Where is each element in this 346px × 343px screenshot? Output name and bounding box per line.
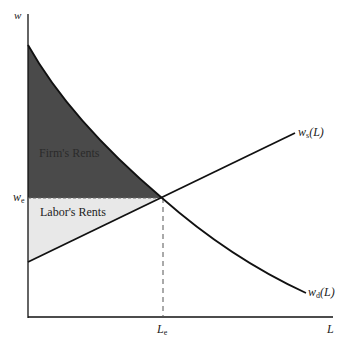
le-label: Le	[157, 322, 167, 337]
supply-label-text: w	[298, 125, 306, 139]
demand-label-text: w	[308, 285, 316, 299]
y-axis-label: w	[14, 9, 21, 21]
demand-label-arg: (L)	[320, 285, 335, 299]
labor-rents-label: Labor's Rents	[40, 205, 106, 220]
firm-rents-region	[28, 45, 162, 198]
we-label-sub: e	[21, 196, 25, 205]
diagram-canvas	[0, 0, 346, 343]
firm-rents-label: Firm's Rents	[39, 146, 100, 161]
we-label: we	[13, 190, 25, 205]
x-axis-label: L	[327, 322, 334, 337]
labor-rents-diagram: w we Le L ws(L) wd(L) Firm's Rents Labor…	[0, 0, 346, 343]
demand-label: wd(L)	[308, 285, 335, 300]
supply-label-arg: (L)	[309, 125, 324, 139]
le-label-sub: e	[164, 328, 168, 337]
we-label-text: w	[13, 190, 21, 204]
le-label-text: L	[157, 322, 164, 336]
supply-label: ws(L)	[298, 125, 324, 140]
